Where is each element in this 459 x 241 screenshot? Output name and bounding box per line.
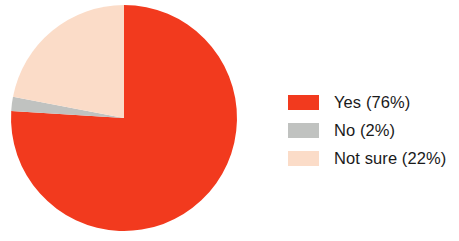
legend-label-yes: Yes (76%) <box>334 94 410 111</box>
pie-chart-figure: Yes (76%) No (2%) Not sure (22%) <box>0 0 459 241</box>
legend-item-no[interactable]: No (2%) <box>288 116 459 144</box>
legend-item-not-sure[interactable]: Not sure (22%) <box>288 144 459 172</box>
legend-label-not-sure: Not sure (22%) <box>334 150 446 167</box>
legend-swatch-not-sure <box>288 151 319 166</box>
pie-chart-plot-area <box>0 0 250 241</box>
legend-swatch-yes <box>288 95 319 110</box>
legend-label-no: No (2%) <box>334 122 395 139</box>
pie-chart-svg <box>0 0 250 241</box>
legend-swatch-no <box>288 123 319 138</box>
pie-slice-group <box>11 5 237 231</box>
chart-legend: Yes (76%) No (2%) Not sure (22%) <box>288 88 459 172</box>
legend-item-yes[interactable]: Yes (76%) <box>288 88 459 116</box>
